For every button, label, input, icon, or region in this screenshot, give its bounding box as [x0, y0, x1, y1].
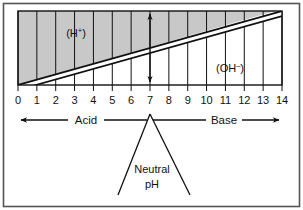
hydroxide-label-open: (OH — [216, 62, 236, 74]
axis-label-13: 13 — [257, 94, 269, 106]
axis-label-2: 2 — [53, 94, 59, 106]
hydrogen-label-open: (H — [66, 27, 78, 39]
axis-label-1: 1 — [34, 94, 40, 106]
axis-label-4: 4 — [90, 94, 96, 106]
hydroxide-label: (OH–) — [216, 61, 244, 74]
axis-label-11: 11 — [220, 94, 231, 106]
hydrogen-label-close: ) — [82, 27, 86, 39]
axis-label-0: 0 — [15, 94, 21, 106]
axis-label-5: 5 — [109, 94, 115, 106]
ph-scale-diagram: (H+) (OH–) 0 1 2 3 4 5 6 7 — [0, 0, 303, 210]
hydrogen-label: (H+) — [66, 26, 86, 39]
axis-label-6: 6 — [128, 94, 134, 106]
axis-label-10: 10 — [200, 94, 212, 106]
base-label: Base — [211, 114, 237, 126]
axis-label-14: 14 — [276, 94, 288, 106]
axis-label-8: 8 — [166, 94, 172, 106]
axis-label-7: 7 — [147, 94, 153, 106]
axis-label-3: 3 — [72, 94, 78, 106]
neutral-label-line1: Neutral — [134, 163, 169, 175]
neutral-label-line2: pH — [145, 178, 159, 190]
axis-label-9: 9 — [185, 94, 191, 106]
ph-scale-figure: (H+) (OH–) 0 1 2 3 4 5 6 7 — [0, 0, 303, 210]
hydroxide-label-close: ) — [240, 62, 244, 74]
acid-label: Acid — [75, 114, 97, 126]
axis-label-12: 12 — [238, 94, 250, 106]
